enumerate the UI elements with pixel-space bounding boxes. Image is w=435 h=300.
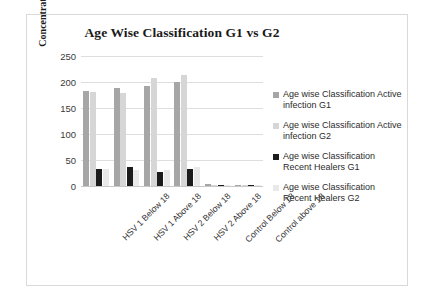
- bar: [235, 185, 241, 186]
- y-tick-label-100: 100: [42, 129, 76, 140]
- bar: [174, 82, 180, 186]
- legend-label: Age wise Classification Recent Healers G…: [283, 151, 405, 173]
- bar-group: [142, 56, 172, 186]
- legend-label: Age wise Classification Active infection…: [283, 120, 405, 142]
- bar-group: [111, 56, 141, 186]
- bar: [255, 185, 261, 186]
- bar-group: [202, 56, 232, 186]
- legend-swatch-icon: [273, 92, 279, 98]
- bar-group: [172, 56, 202, 186]
- bar: [205, 184, 211, 186]
- bar: [194, 167, 200, 186]
- bar: [164, 170, 170, 186]
- bar: [248, 185, 254, 186]
- bar: [157, 172, 163, 186]
- bar: [181, 75, 187, 186]
- y-tick-label-150: 150: [42, 103, 76, 114]
- legend-item[interactable]: Age wise Classification Active infection…: [273, 120, 405, 142]
- plot-area: Concentration (pg/ml) 050100150200250 HS…: [81, 56, 263, 186]
- chart-title: Age Wise Classification G1 vs G2: [27, 25, 337, 41]
- legend-label: Age wise Classification Active infection…: [283, 89, 405, 111]
- legend-swatch-icon: [273, 185, 279, 191]
- bar: [144, 86, 150, 186]
- legend-label: Age wise Classification Recent Healers G…: [283, 182, 405, 204]
- y-tick-label-250: 250: [42, 51, 76, 62]
- gridline-0: [81, 186, 263, 187]
- bar: [133, 170, 139, 186]
- bar: [103, 169, 109, 186]
- legend-item[interactable]: Age wise Classification Recent Healers G…: [273, 182, 405, 204]
- legend-item[interactable]: Age wise Classification Recent Healers G…: [273, 151, 405, 173]
- bar: [151, 78, 157, 186]
- bar: [114, 88, 120, 186]
- bar: [96, 169, 102, 186]
- y-tick-label-50: 50: [42, 155, 76, 166]
- bar: [127, 167, 133, 186]
- legend-swatch-icon: [273, 123, 279, 129]
- y-tick-label-0: 0: [42, 181, 76, 192]
- bar: [224, 185, 230, 186]
- y-tick-label-200: 200: [42, 77, 76, 88]
- bar: [83, 91, 89, 186]
- bar-group: [233, 56, 263, 186]
- bar-group: [81, 56, 111, 186]
- bar: [211, 185, 217, 186]
- legend-swatch-icon: [273, 154, 279, 160]
- bar: [242, 185, 248, 186]
- chart-legend: Age wise Classification Active infection…: [273, 89, 405, 213]
- chart-figure: Age Wise Classification G1 vs G2 Concent…: [26, 14, 408, 286]
- bar: [218, 185, 224, 186]
- bar: [120, 93, 126, 186]
- legend-item[interactable]: Age wise Classification Active infection…: [273, 89, 405, 111]
- bar: [187, 169, 193, 186]
- bar: [90, 92, 96, 186]
